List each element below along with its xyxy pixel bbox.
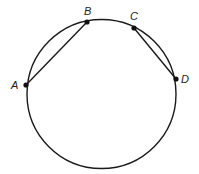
chord-cd [134,28,176,79]
point-label-c: C [130,11,138,22]
point-c [131,25,136,30]
chord-ab [26,22,87,85]
circle [27,20,176,169]
chords [26,22,176,85]
point-d [173,76,178,81]
point-label-d: D [181,74,189,85]
circle-diagram: A B C D [0,0,199,174]
diagram-canvas [0,0,199,174]
point-label-b: B [84,6,91,17]
point-b [84,19,89,24]
point-a [23,82,28,87]
point-label-a: A [11,80,18,91]
